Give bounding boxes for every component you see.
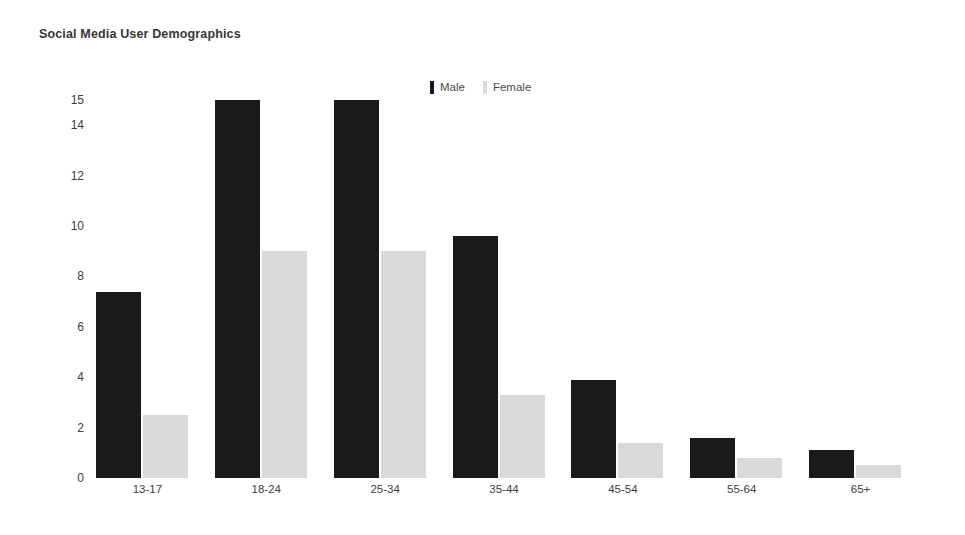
bar-group xyxy=(96,100,188,478)
y-axis-tick-label: 14 xyxy=(71,119,84,131)
bar-group xyxy=(453,100,545,478)
legend-item-female[interactable]: Female xyxy=(483,81,531,94)
bar-male[interactable] xyxy=(690,438,735,478)
x-axis-tick-label: 65+ xyxy=(851,483,871,495)
plot-area xyxy=(88,100,920,478)
legend-swatch-male xyxy=(430,81,434,94)
bar-male[interactable] xyxy=(334,100,379,478)
bar-male[interactable] xyxy=(96,292,141,478)
y-axis-tick-label: 8 xyxy=(77,270,84,282)
bar-female[interactable] xyxy=(262,251,307,478)
legend-label-male: Male xyxy=(440,81,465,93)
y-axis-tick-label: 10 xyxy=(71,220,84,232)
x-axis-tick-label: 55-64 xyxy=(727,483,756,495)
y-axis: 0246810121415 xyxy=(40,100,84,480)
bar-group xyxy=(334,100,426,478)
x-axis-tick-label: 35-44 xyxy=(489,483,518,495)
chart-title: Social Media User Demographics xyxy=(39,27,241,41)
bar-female[interactable] xyxy=(381,251,426,478)
bar-male[interactable] xyxy=(809,450,854,478)
bar-female[interactable] xyxy=(618,443,663,478)
bar-group xyxy=(809,100,901,478)
y-axis-tick-label: 2 xyxy=(77,422,84,434)
bar-female[interactable] xyxy=(500,395,545,478)
chart-container: Social Media User Demographics Male Fema… xyxy=(0,0,965,535)
bar-male[interactable] xyxy=(453,236,498,478)
legend-label-female: Female xyxy=(493,81,531,93)
bar-female[interactable] xyxy=(143,415,188,478)
x-axis: 13-1718-2425-3435-4445-5455-6465+ xyxy=(88,483,920,505)
bar-male[interactable] xyxy=(215,100,260,478)
bar-group xyxy=(215,100,307,478)
x-axis-tick-label: 45-54 xyxy=(608,483,637,495)
chart-legend: Male Female xyxy=(430,79,531,95)
y-axis-tick-label: 6 xyxy=(77,321,84,333)
y-axis-tick-label: 4 xyxy=(77,371,84,383)
bar-group xyxy=(690,100,782,478)
bar-male[interactable] xyxy=(571,380,616,478)
legend-item-male[interactable]: Male xyxy=(430,81,465,94)
bar-female[interactable] xyxy=(737,458,782,478)
y-axis-tick-label: 15 xyxy=(71,94,84,106)
y-axis-tick-label: 0 xyxy=(77,472,84,484)
bar-female[interactable] xyxy=(856,465,901,478)
legend-swatch-female xyxy=(483,81,487,94)
bar-group xyxy=(571,100,663,478)
y-axis-tick-label: 12 xyxy=(71,170,84,182)
x-axis-tick-label: 18-24 xyxy=(252,483,281,495)
x-axis-tick-label: 25-34 xyxy=(370,483,399,495)
x-axis-tick-label: 13-17 xyxy=(133,483,162,495)
